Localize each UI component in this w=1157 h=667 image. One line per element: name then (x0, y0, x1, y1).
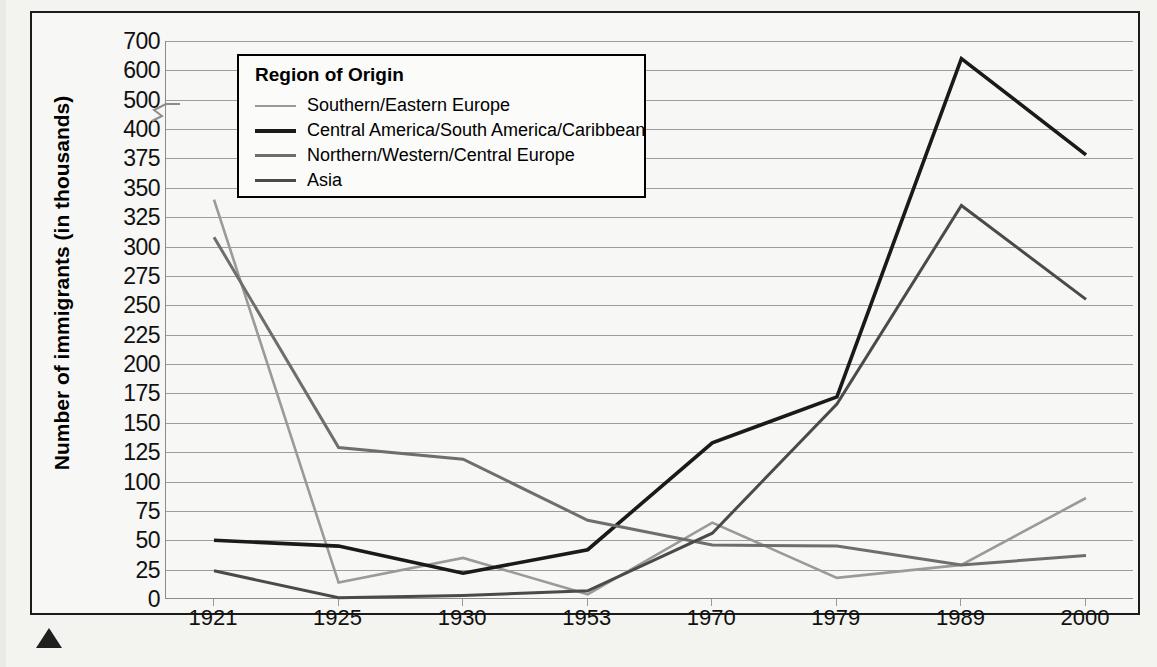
series-line (214, 200, 1086, 595)
y-axis-tick-label: 150 (123, 409, 160, 436)
series-line (214, 237, 1086, 565)
y-axis-tick-label: 75 (135, 497, 160, 524)
legend-item-label: Northern/Western/Central Europe (307, 145, 575, 166)
x-axis-tick-label: 1989 (936, 605, 985, 631)
y-axis-tick-label: 50 (135, 527, 160, 554)
y-axis-tick-label: 375 (123, 145, 160, 172)
legend-item-label: Central America/South America/Caribbean (307, 120, 645, 141)
legend-item: Central America/South America/Caribbean (255, 118, 644, 143)
legend-item: Asia (255, 168, 644, 193)
x-axis-tick-label: 2000 (1061, 605, 1110, 631)
x-axis-tick-label: 1953 (562, 605, 611, 631)
y-axis-tick-label: 250 (123, 292, 160, 319)
legend: Region of Origin Southern/Eastern Europe… (237, 54, 646, 198)
y-axis-tick-label: 325 (123, 204, 160, 231)
y-axis-tick-label: 300 (123, 233, 160, 260)
x-axis-tick-label: 1921 (189, 605, 238, 631)
y-axis-tick-label: 275 (123, 262, 160, 289)
legend-line-swatch (255, 154, 296, 157)
x-axis-tick-labels: 19211925193019531970197919892000 (165, 605, 1133, 635)
series-line (214, 206, 1086, 598)
legend-title: Region of Origin (255, 64, 644, 86)
x-axis-tick-label: 1979 (811, 605, 860, 631)
legend-line-swatch (255, 105, 296, 107)
legend-item-label: Asia (307, 170, 342, 191)
y-axis-tick-label: 175 (123, 380, 160, 407)
x-axis-tick-label: 1925 (313, 605, 362, 631)
y-axis-tick-label: 700 (123, 28, 160, 55)
legend-item: Southern/Eastern Europe (255, 93, 644, 118)
x-axis-tick-label: 1970 (687, 605, 736, 631)
y-axis-tick-label: 225 (123, 321, 160, 348)
y-axis-tick-label: 350 (123, 174, 160, 201)
y-axis-title: Number of immigrants (in thousands) (50, 48, 74, 518)
y-axis-tick-labels: 7006005004003753503253002752502252001751… (72, 41, 160, 599)
legend-entries: Southern/Eastern EuropeCentral America/S… (255, 93, 644, 193)
y-axis-tick-label: 100 (123, 468, 160, 495)
y-axis-tick-label: 600 (123, 57, 160, 84)
legend-line-swatch (255, 129, 296, 133)
chart-figure-frame: Number of immigrants (in thousands) 7006… (30, 11, 1140, 615)
legend-line-swatch (255, 179, 296, 182)
y-axis-tick-label: 200 (123, 351, 160, 378)
legend-item-label: Southern/Eastern Europe (307, 95, 510, 116)
legend-item: Northern/Western/Central Europe (255, 143, 644, 168)
x-axis-tick-label: 1930 (438, 605, 487, 631)
y-axis-tick-label: 0 (148, 586, 160, 613)
y-axis-tick-label: 125 (123, 439, 160, 466)
page-corner-arrow-marker (36, 628, 62, 648)
y-axis-tick-label: 25 (135, 556, 160, 583)
